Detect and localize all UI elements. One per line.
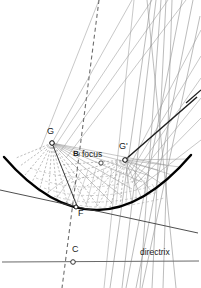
- parabola-diagram-canvas: G G' B focus F C directrix: [0, 0, 201, 288]
- label-point-g-prime: G': [119, 142, 128, 151]
- point-marker-g-prime[interactable]: [123, 158, 128, 163]
- point-marker-g[interactable]: [50, 141, 55, 146]
- label-point-b: B: [73, 150, 79, 158]
- label-point-g: G: [47, 127, 54, 136]
- label-point-f: F: [78, 209, 84, 218]
- upper-construction-lines: [40, 0, 186, 158]
- point-marker-c[interactable]: [71, 260, 76, 265]
- directrix-line: [2, 261, 199, 262]
- label-directrix: directrix: [140, 248, 170, 257]
- label-point-c: C: [72, 245, 79, 254]
- point-marker-focus[interactable]: [99, 161, 103, 165]
- label-focus: focus: [82, 150, 102, 159]
- axis-dashed-line: [62, 0, 99, 288]
- diagram-svg: [0, 0, 201, 288]
